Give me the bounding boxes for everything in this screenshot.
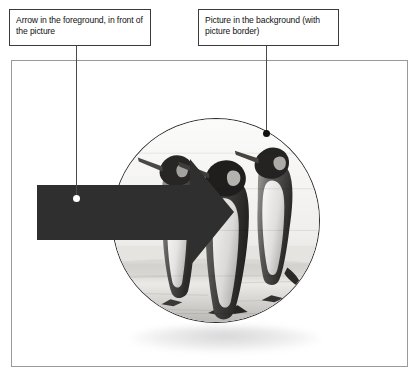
leader-dot-picture (263, 130, 270, 137)
picture-shadow (130, 326, 320, 352)
foreground-block-arrow[interactable] (37, 159, 234, 266)
callout-picture-label: Picture in the background (with picture … (205, 15, 320, 36)
callout-box-picture: Picture in the background (with picture … (198, 9, 339, 46)
leader-dot-arrow (73, 195, 80, 202)
figure-canvas: Arrow in the foreground, in front of the… (0, 0, 416, 381)
block-arrow-icon (37, 159, 234, 266)
leader-line-picture (266, 45, 267, 133)
leader-line-arrow (76, 45, 77, 198)
callout-arrow-label: Arrow in the foreground, in front of the… (16, 15, 143, 36)
callout-box-arrow: Arrow in the foreground, in front of the… (9, 9, 151, 46)
